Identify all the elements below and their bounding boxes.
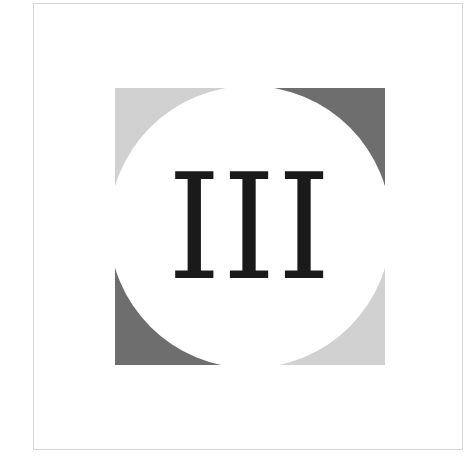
roman-numeral-logo: III — [115, 88, 385, 365]
roman-numeral-text: III — [126, 88, 374, 365]
